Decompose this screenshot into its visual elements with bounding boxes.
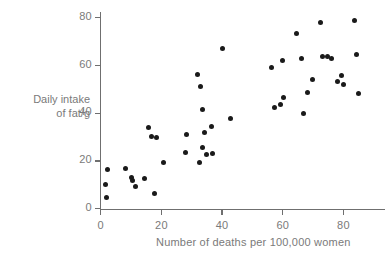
data-point (228, 116, 233, 121)
x-axis-title: Number of deaths per 100,000 women (156, 236, 351, 248)
scatter-chart: Daily intake of fat/g 020406080 02040608… (0, 0, 389, 258)
plot-area (0, 0, 389, 258)
data-point (354, 52, 359, 57)
data-point (339, 73, 344, 78)
data-point (183, 150, 188, 155)
data-point (341, 82, 346, 87)
data-point (152, 191, 157, 196)
data-point (200, 107, 205, 112)
data-point (133, 184, 138, 189)
data-point (210, 151, 215, 156)
data-point (154, 135, 159, 140)
data-point (146, 125, 151, 130)
data-point (305, 90, 310, 95)
data-point (103, 182, 108, 187)
data-point (299, 56, 304, 61)
data-point (301, 111, 306, 116)
data-point (280, 58, 285, 63)
data-point (220, 46, 225, 51)
data-point (202, 130, 207, 135)
data-point (204, 152, 209, 157)
data-point (197, 160, 202, 165)
data-point (278, 102, 283, 107)
data-point (356, 91, 361, 96)
data-point (335, 79, 340, 84)
data-point (209, 124, 214, 129)
data-point (200, 145, 205, 150)
data-point (195, 72, 200, 77)
data-point (320, 54, 325, 59)
data-point (281, 95, 286, 100)
data-point (198, 84, 203, 89)
data-point (161, 160, 166, 165)
data-point (294, 31, 299, 36)
data-point (130, 178, 135, 183)
data-point (123, 166, 128, 171)
data-point (104, 195, 109, 200)
data-point (269, 65, 274, 70)
data-point (352, 18, 357, 23)
data-point (142, 176, 147, 181)
data-point (318, 20, 323, 25)
data-point (329, 56, 334, 61)
data-point (272, 105, 277, 110)
data-point (105, 167, 110, 172)
data-point (184, 132, 189, 137)
data-point (310, 77, 315, 82)
